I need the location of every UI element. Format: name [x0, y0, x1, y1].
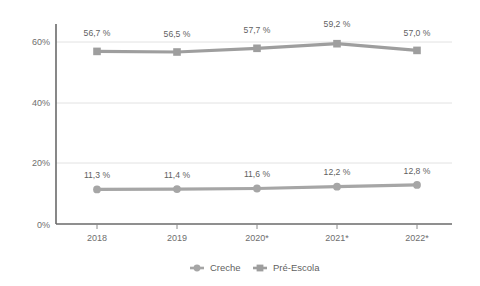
chart-canvas: 60% 40% 20% 0% 2018 2019 2020* 2021* 202…	[0, 0, 480, 286]
data-label-pre-escola-2018: 56,7 %	[84, 28, 111, 38]
x-tick-label-2018: 2018	[87, 233, 107, 243]
y-tick-label-20: 20%	[32, 158, 50, 168]
series-creche	[93, 181, 421, 193]
data-label-creche-2021: 12,2 %	[324, 167, 351, 177]
x-tick-label-2020: 2020*	[245, 233, 269, 243]
data-label-pre-escola-2022: 57,0 %	[404, 28, 431, 38]
data-label-creche-2020: 11,6 %	[244, 169, 270, 179]
x-tick-label-2021: 2021*	[325, 233, 349, 243]
legend-label-creche: Creche	[210, 262, 241, 273]
data-point-pre-escola-2019	[173, 48, 181, 56]
data-label-pre-escola-2020: 57,7 %	[244, 25, 271, 35]
legend-item-creche[interactable]: Creche	[190, 262, 241, 273]
legend-label-pre-escola: Pré-Escola	[273, 262, 320, 273]
data-point-creche-2020	[253, 185, 261, 193]
x-tick-label-2019: 2019	[167, 233, 187, 243]
legend-marker-pre-escola-icon	[253, 265, 267, 272]
data-point-pre-escola-2022	[413, 47, 421, 55]
y-tick-label-40: 40%	[32, 98, 50, 108]
data-label-creche-2018: 11,3 %	[84, 170, 110, 180]
data-point-creche-2021	[333, 183, 341, 191]
y-tick-label-60: 60%	[32, 37, 50, 47]
data-labels-pre-escola: 56,7 % 56,5 % 57,7 % 59,2 % 57,0 %	[84, 19, 431, 39]
line-chart: 60% 40% 20% 0% 2018 2019 2020* 2021* 202…	[0, 0, 480, 286]
data-point-pre-escola-2018	[93, 48, 101, 56]
x-axis-ticks: 2018 2019 2020* 2021* 2022*	[87, 233, 429, 243]
data-label-pre-escola-2021: 59,2 %	[324, 19, 351, 29]
data-label-creche-2019: 11,4 %	[164, 170, 190, 180]
data-point-pre-escola-2021	[333, 40, 341, 48]
data-point-creche-2018	[93, 186, 101, 194]
gridlines	[56, 42, 452, 163]
x-tick-label-2022: 2022*	[405, 233, 429, 243]
data-point-creche-2022	[413, 181, 421, 189]
data-labels-creche: 11,3 % 11,4 % 11,6 % 12,2 % 12,8 %	[84, 166, 431, 180]
legend-item-pre-escola[interactable]: Pré-Escola	[253, 262, 320, 273]
legend: Creche Pré-Escola	[190, 262, 320, 273]
data-label-pre-escola-2019: 56,5 %	[164, 29, 191, 39]
data-label-creche-2022: 12,8 %	[404, 166, 431, 176]
data-point-pre-escola-2020	[253, 45, 261, 53]
y-axis-ticks: 60% 40% 20% 0%	[32, 37, 50, 230]
y-tick-label-0: 0%	[37, 220, 50, 230]
data-point-creche-2019	[173, 185, 181, 193]
legend-marker-creche-icon	[190, 265, 204, 272]
